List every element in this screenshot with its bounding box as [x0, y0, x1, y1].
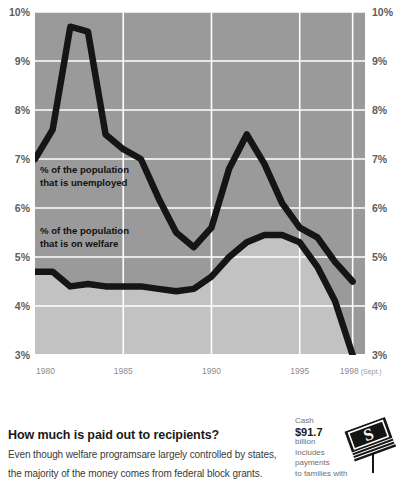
y-tick-right-6%: 6% — [372, 202, 388, 214]
y-tick-right-9%: 9% — [372, 55, 388, 67]
y-tick-7%: 7% — [15, 153, 31, 165]
footer-headline: How much is paid out to recipients? — [8, 428, 219, 442]
y-tick-3%: 3% — [15, 349, 31, 361]
x-tick-1980: 1980 — [36, 366, 55, 376]
welfare-annotation-line1: % of the population — [40, 225, 129, 236]
y-axis-left-labels: 3%4%5%6%7%8%9%10% — [9, 6, 31, 361]
welfare-annotation-line2: that is on welfare — [40, 238, 118, 249]
x-tick-1985: 1985 — [114, 366, 133, 376]
y-axis-right-labels: 3%4%5%6%7%8%9%10% — [372, 6, 394, 361]
y-tick-6%: 6% — [15, 202, 31, 214]
y-tick-4%: 4% — [15, 300, 31, 312]
y-tick-right-8%: 8% — [372, 104, 388, 116]
footer-section: How much is paid out to recipients? Even… — [0, 390, 408, 503]
y-tick-5%: 5% — [15, 251, 31, 263]
y-tick-right-3%: 3% — [372, 349, 388, 361]
x-tick-1990: 1990 — [202, 366, 221, 376]
x-tick-1998: 1998 — [340, 366, 359, 376]
chart-canvas: 3%4%5%6%7%8%9%10% 3%4%5%6%7%8%9%10% 1980… — [0, 0, 408, 390]
welfare-unemployment-line-chart: 3%4%5%6%7%8%9%10% 3%4%5%6%7%8%9%10% 1980… — [0, 0, 408, 390]
footer-body-line-2: the majority of the money comes from fed… — [8, 468, 262, 479]
y-tick-9%: 9% — [15, 55, 31, 67]
unemployment-annotation-line2: that is unemployed — [40, 177, 128, 188]
unemployment-annotation-line1: % of the population — [40, 164, 129, 175]
y-tick-right-5%: 5% — [372, 251, 388, 263]
x-tick-note: (Sept.) — [361, 368, 382, 376]
y-tick-10%: 10% — [9, 6, 31, 18]
y-tick-right-10%: 10% — [372, 6, 394, 18]
cash-stack-icon: S — [340, 415, 402, 473]
y-tick-right-7%: 7% — [372, 153, 388, 165]
y-tick-8%: 8% — [15, 104, 31, 116]
y-tick-right-4%: 4% — [372, 300, 388, 312]
x-axis-labels: 19801985199019951998(Sept.) — [36, 366, 382, 376]
footer-body-line-1: Even though welfare programsare largely … — [8, 449, 277, 460]
x-tick-1995: 1995 — [290, 366, 309, 376]
